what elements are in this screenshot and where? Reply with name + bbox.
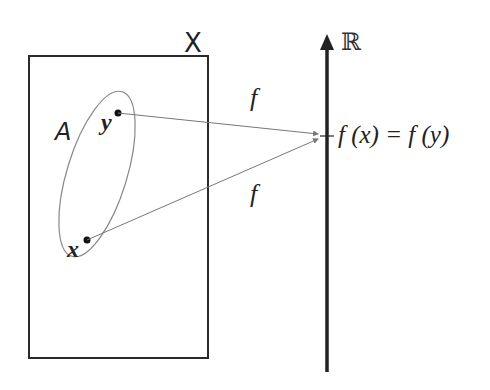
subset-a-ellipse	[43, 83, 151, 265]
map-label-bottom: f	[250, 179, 261, 208]
set-x-box	[29, 56, 208, 358]
subset-a-label: A	[53, 118, 71, 146]
point-x-label: x	[66, 236, 79, 262]
map-label-top: f	[250, 83, 261, 112]
codomain-label: ℝ	[341, 29, 362, 55]
map-arrow-y	[118, 113, 318, 134]
diagram-canvas: X A y x f f ℝ f (x) = f (y)	[0, 0, 490, 390]
image-label: f (x) = f (y)	[338, 121, 449, 149]
set-x-label: X	[184, 28, 202, 58]
map-arrow-x	[87, 139, 318, 240]
real-axis-arrowhead	[320, 34, 334, 50]
point-y-label: y	[98, 109, 112, 135]
